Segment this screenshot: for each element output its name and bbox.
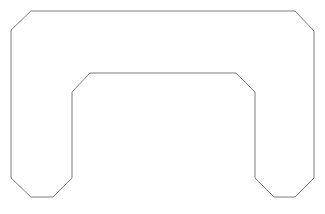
- arch-profile-outline-path: [11, 11, 314, 197]
- drawing-canvas: [0, 0, 325, 214]
- figure-caption: [0, 203, 325, 213]
- outline-drawing: [0, 0, 325, 214]
